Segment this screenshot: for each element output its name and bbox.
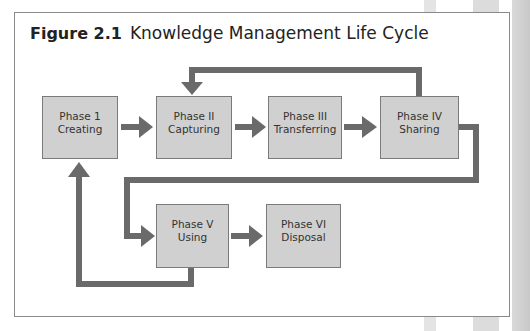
phase-label: Phase III — [283, 110, 327, 123]
phase-3-box: Phase III Transferring — [268, 96, 342, 159]
phase-name: Disposal — [281, 231, 325, 244]
phase-label: Phase II — [174, 110, 215, 123]
phase-1-box: Phase 1 Creating — [42, 96, 118, 159]
arrow-4-to-2-loop — [181, 67, 422, 96]
phase-label: Phase IV — [397, 110, 442, 123]
phase-name: Creating — [58, 123, 103, 136]
flow-arrows — [0, 0, 530, 331]
phase-name: Using — [178, 231, 207, 244]
phase-label: Phase VI — [281, 218, 326, 231]
arrow-5-to-6 — [231, 225, 263, 247]
phase-label: Phase V — [172, 218, 214, 231]
phase-6-box: Phase VI Disposal — [266, 204, 341, 268]
phase-name: Transferring — [274, 123, 337, 136]
phase-name: Capturing — [168, 123, 220, 136]
phase-2-box: Phase II Capturing — [156, 96, 232, 159]
phase-label: Phase 1 — [59, 110, 100, 123]
phase-5-box: Phase V Using — [156, 204, 229, 268]
arrow-1-to-2 — [121, 116, 153, 138]
arrow-2-to-3 — [235, 116, 266, 138]
phase-name: Sharing — [399, 123, 439, 136]
phase-4-box: Phase IV Sharing — [380, 96, 459, 159]
arrow-3-to-4 — [344, 116, 377, 138]
